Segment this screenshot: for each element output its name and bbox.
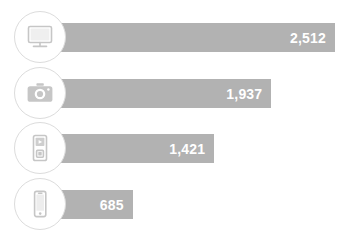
chart-row: 685	[0, 177, 346, 233]
bar-track[interactable]: 1,421	[57, 134, 214, 163]
camera-icon-badge[interactable]	[14, 67, 66, 119]
bar-track[interactable]: 1,937	[57, 79, 271, 108]
camera-icon	[25, 80, 55, 106]
bar-value-label: 1,937	[226, 87, 262, 101]
media-player-icon-badge[interactable]	[14, 122, 66, 174]
media-player-icon	[27, 133, 53, 163]
smartphone-icon-badge[interactable]	[14, 178, 66, 230]
monitor-icon	[25, 24, 55, 50]
bar-track[interactable]: 2,512	[57, 23, 335, 52]
chart-row: 2,512	[0, 10, 346, 66]
horizontal-bar-chart: 2,512 1,937	[0, 0, 346, 247]
bar-value-label: 2,512	[290, 31, 326, 45]
bar-track[interactable]: 685	[57, 190, 133, 219]
smartphone-icon	[28, 189, 52, 219]
bar-value-label: 1,421	[169, 142, 205, 156]
chart-row: 1,937	[0, 66, 346, 122]
chart-row: 1,421	[0, 121, 346, 177]
bar-value-label: 685	[100, 198, 124, 212]
monitor-icon-badge[interactable]	[14, 11, 66, 63]
